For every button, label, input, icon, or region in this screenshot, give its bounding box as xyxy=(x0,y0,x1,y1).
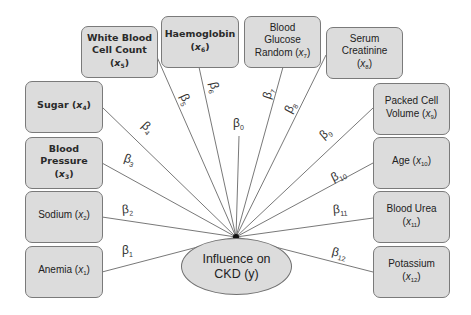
feature-box-age: Age (x10) xyxy=(373,137,450,189)
target-ellipse-ckd: Influence onCKD (y) xyxy=(181,238,292,295)
feature-box-white-blood-cell-count: White BloodCell Count(x5) xyxy=(81,26,158,78)
feature-box-blood-urea: Blood Urea(x11) xyxy=(373,191,450,243)
beta-label-0: β0 xyxy=(233,116,244,131)
feature-box-potassium: Potassium(x12) xyxy=(373,246,450,298)
edge-x4 xyxy=(102,107,236,237)
beta-label-1: β1 xyxy=(122,243,133,258)
beta-label-11: β11 xyxy=(332,201,347,217)
edge-x10 xyxy=(236,163,373,237)
feature-box-sodium: Sodium (x2) xyxy=(25,191,103,243)
edge-intercept xyxy=(236,136,239,237)
feature-box-blood-glucose-random: BloodGlucoseRandom (x7) xyxy=(244,16,321,68)
edge-x6 xyxy=(199,67,236,237)
edge-x11 xyxy=(236,218,373,237)
beta-label-2: β2 xyxy=(121,202,133,218)
edge-x5 xyxy=(157,57,236,237)
edge-x2 xyxy=(102,217,236,237)
edge-x8 xyxy=(236,55,326,237)
feature-box-anemia: Anemia (x1) xyxy=(25,246,103,298)
ckd-influence-diagram: Sugar (x4) BloodPressure(x3) Sodium (x2)… xyxy=(0,0,471,315)
feature-box-haemoglobin: Haemoglobin(x6) xyxy=(161,16,239,68)
feature-box-serum-creatinine: SerumCreatinine(x8) xyxy=(326,27,403,79)
feature-box-blood-pressure: BloodPressure(x3) xyxy=(25,137,103,189)
edge-x9 xyxy=(236,108,373,237)
feature-box-sugar: Sugar (x4) xyxy=(25,81,103,133)
edge-x3 xyxy=(102,163,236,237)
feature-box-packed-cell-volume: Packed CellVolume (x9) xyxy=(373,83,450,135)
